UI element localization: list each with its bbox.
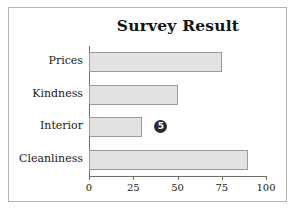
bar-row: Interior 5 — [89, 111, 266, 144]
bar — [89, 52, 222, 72]
x-axis-tick-label: 75 — [215, 182, 228, 193]
bar — [89, 85, 178, 105]
plot-area: Prices Kindness Interior 5 Cleanliness 0… — [89, 46, 266, 176]
x-axis-tick-label: 0 — [86, 182, 92, 193]
category-label: Cleanliness — [19, 152, 83, 165]
chart-figure: Survey Result Prices Kindness Interior 5… — [0, 0, 297, 212]
bar — [89, 150, 248, 170]
x-axis-tick — [222, 176, 223, 180]
bar — [89, 117, 142, 137]
x-axis-tick-label: 50 — [171, 182, 184, 193]
category-label: Kindness — [32, 87, 83, 100]
x-axis-tick — [178, 176, 179, 180]
circled-number-5-annotation: 5 — [154, 120, 167, 133]
bar-row: Prices — [89, 46, 266, 79]
bar-row: Kindness — [89, 79, 266, 112]
bar-row: Cleanliness — [89, 144, 266, 177]
category-label: Prices — [49, 54, 84, 67]
chart-title: Survey Result — [89, 16, 267, 35]
x-axis-tick — [266, 176, 267, 180]
x-axis-tick — [133, 176, 134, 180]
x-axis-tick-label: 100 — [256, 182, 275, 193]
x-axis-tick-label: 25 — [127, 182, 140, 193]
category-label: Interior — [40, 119, 83, 132]
x-axis-tick — [89, 176, 90, 180]
